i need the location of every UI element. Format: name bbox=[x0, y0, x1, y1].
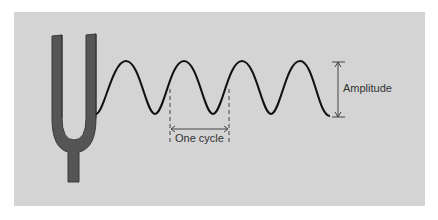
sound-wave bbox=[96, 61, 330, 116]
cycle-label: One cycle bbox=[175, 132, 224, 144]
tuning-fork-icon bbox=[52, 34, 96, 182]
diagram-canvas bbox=[0, 0, 438, 220]
amplitude-label: Amplitude bbox=[343, 82, 392, 94]
